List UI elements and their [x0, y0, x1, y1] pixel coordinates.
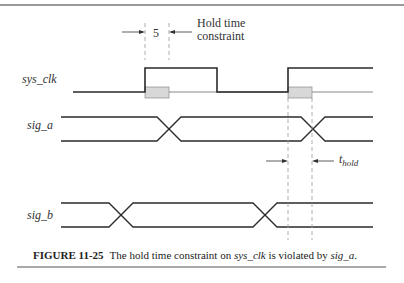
hold-note-line1: Hold time [197, 16, 245, 30]
arrow-right-icon [139, 30, 145, 34]
signal-label-sig-b: sig_b [27, 208, 53, 222]
figure-number: FIGURE 11-25 [33, 249, 104, 261]
t-hold-dimension: thold [266, 152, 359, 168]
caption-text-mid: is violated by [266, 249, 331, 261]
hold-value: 5 [153, 26, 159, 40]
figure-caption: FIGURE 11-25The hold time constraint on … [33, 249, 393, 261]
signal-label-sys-clk: sys_clk [22, 72, 57, 86]
caption-text-post: . [354, 249, 357, 261]
arrow-left-icon [312, 159, 318, 163]
sig-a-waveform [61, 117, 373, 141]
svg-text:thold: thold [339, 152, 359, 168]
caption-signal-sys-clk: sys_clk [234, 249, 266, 261]
hold-dimension-top: 5 Hold time constraint [122, 16, 245, 60]
caption-signal-sig-a: sig_a [330, 249, 354, 261]
hold-note-line2: constraint [197, 29, 245, 43]
arrow-right-icon [282, 159, 288, 163]
hold-window-box-2 [288, 87, 312, 98]
arrow-left-icon [169, 30, 175, 34]
sys-clk-waveform [73, 68, 373, 98]
t-hold-subscript: hold [342, 158, 359, 168]
hold-window-box-1 [145, 87, 169, 98]
sig-b-waveform [61, 203, 373, 227]
caption-text-pre: The hold time constraint on [110, 249, 234, 261]
timing-diagram: 5 Hold time constraint sys_clk sig_a sig… [0, 0, 404, 283]
signal-label-sig-a: sig_a [27, 118, 53, 132]
